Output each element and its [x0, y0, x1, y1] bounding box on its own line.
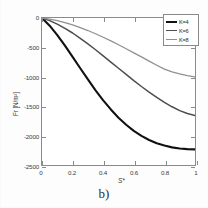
- y-tick-label: -2000: [24, 133, 39, 140]
- y-tick-label: -1000: [24, 73, 39, 80]
- y-tick-right: [191, 78, 195, 79]
- y-tick-label: -500: [27, 43, 39, 50]
- y-tick-label: -2500: [24, 163, 39, 170]
- legend-box: K=4K=6K=8: [163, 14, 199, 46]
- x-tick: [73, 161, 74, 165]
- y-tick-right: [191, 48, 195, 49]
- x-tick-top: [135, 18, 136, 22]
- x-tick-top: [73, 18, 74, 22]
- x-tick-label: 0: [39, 169, 42, 176]
- legend-label: K=8: [179, 37, 189, 43]
- legend-label: K=4: [179, 19, 189, 25]
- y-tick-label: 0: [36, 14, 39, 21]
- y-tick: [42, 78, 46, 79]
- legend-item: K=6: [165, 26, 197, 35]
- x-tick-label: 0.8: [161, 169, 169, 176]
- y-tick-right: [191, 137, 195, 138]
- legend-swatch: [166, 30, 177, 31]
- x-tick-label: 0.6: [130, 169, 138, 176]
- x-tick-label: 0.2: [68, 169, 76, 176]
- x-tick: [42, 161, 43, 165]
- x-tick-label: 1: [194, 169, 197, 176]
- x-tick-label: 0.4: [99, 169, 107, 176]
- y-tick: [42, 137, 46, 138]
- y-tick: [42, 107, 46, 108]
- x-tick-top: [104, 18, 105, 22]
- y-tick-label: -1500: [24, 103, 39, 110]
- legend-item: K=8: [165, 35, 197, 44]
- legend-swatch: [166, 39, 177, 40]
- y-tick-right: [191, 107, 195, 108]
- x-tick: [166, 161, 167, 165]
- figure-panel: 0-500-1000-1500-2000-2500 00.20.40.60.81…: [0, 0, 208, 208]
- x-tick: [197, 161, 198, 165]
- y-tick: [42, 48, 46, 49]
- legend-label: K=6: [179, 28, 189, 34]
- figure-caption: b): [0, 186, 208, 202]
- x-tick-top: [42, 18, 43, 22]
- y-tick: [42, 167, 46, 168]
- y-axis-label: Fr [N/m²]: [12, 92, 19, 116]
- x-axis-label: S*: [118, 177, 125, 184]
- x-tick: [104, 161, 105, 165]
- legend-swatch: [166, 21, 177, 23]
- y-tick-right: [191, 167, 195, 168]
- legend-item: K=4: [165, 17, 197, 26]
- x-tick: [135, 161, 136, 165]
